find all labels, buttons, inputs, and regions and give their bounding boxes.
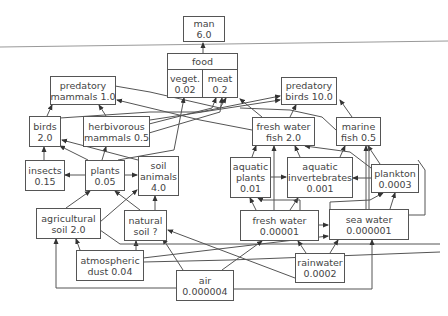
node-label: fresh water: [253, 215, 307, 226]
node-label: herbivorous: [88, 121, 144, 132]
node-label: soil: [150, 160, 166, 171]
node-label: plankton: [374, 168, 416, 179]
node-natural-soil: natural soil ?: [124, 210, 167, 241]
connector-lines: [0, 0, 448, 316]
node-air: air 0.000004: [176, 270, 234, 301]
node-label: rainwater: [297, 257, 342, 268]
node-label: mammals 0.5: [84, 132, 149, 143]
node-fresh-water: fresh water 0.00001: [240, 210, 319, 241]
node-value: 0.00001: [260, 226, 299, 237]
node-label: predatory: [60, 80, 107, 91]
food-chain-diagram: man 6.0 food veget. 0.02 meat 0.2 predat…: [0, 0, 448, 316]
node-agricultural-soil: agricultural soil 2.0: [36, 208, 101, 239]
node-soil-animals: soil animals 4.0: [138, 156, 179, 196]
node-value: 0.000001: [346, 225, 391, 236]
node-food-veget: veget. 0.02: [168, 70, 202, 98]
node-label: plants: [236, 172, 265, 183]
node-marine-fish: marine fish 0.5: [336, 117, 381, 146]
node-value: 0.01: [240, 183, 261, 194]
node-value: 6.0: [196, 29, 211, 40]
node-label: agricultural: [41, 213, 95, 224]
node-value: 0.15: [34, 176, 55, 187]
node-label: invertebrates: [288, 172, 352, 183]
node-value: 2.0: [37, 132, 52, 143]
node-value: 0.001: [306, 183, 333, 194]
node-label: atmospheric: [80, 255, 139, 266]
node-atmospheric-dust: atmospheric dust 0.04: [76, 250, 144, 281]
node-birds: birds 2.0: [29, 116, 61, 147]
node-label: plants: [90, 165, 119, 176]
node-food-meat: meat 0.2: [202, 70, 237, 98]
node-herbivorous-mammals: herbivorous mammals 0.5: [83, 116, 150, 147]
node-fresh-water-fish: fresh water fish 2.0: [252, 117, 315, 146]
node-value: 0.2: [203, 84, 237, 95]
node-label: aquatic: [233, 161, 268, 172]
node-value: 0.0003: [378, 179, 411, 190]
node-label: dust 0.04: [88, 266, 133, 277]
node-label: aquatic: [302, 161, 337, 172]
node-label: fresh water: [257, 121, 311, 132]
node-predatory-birds: predatory birds 10.0: [281, 77, 337, 105]
node-label: fish 0.5: [341, 132, 376, 143]
node-label: marine: [342, 121, 376, 132]
node-predatory-mammals: predatory mammals 1.0: [50, 76, 116, 105]
node-label: meat: [203, 73, 237, 84]
node-plants: plants 0.05: [85, 160, 125, 191]
node-value: 0.000004: [182, 286, 227, 297]
node-insects: insects 0.15: [25, 160, 65, 191]
food-header: food: [168, 54, 237, 70]
node-label: soil ?: [133, 226, 157, 237]
node-value: 4.0: [151, 182, 166, 193]
node-plankton: plankton 0.0003: [371, 164, 419, 193]
node-label: sea water: [346, 214, 393, 225]
node-label: insects: [28, 165, 61, 176]
node-label: man: [193, 18, 214, 29]
node-label: birds 10.0: [285, 91, 333, 102]
node-label: air: [199, 275, 211, 286]
node-aquatic-invertebrates: aquatic invertebrates 0.001: [287, 157, 353, 198]
node-value: 0.0002: [303, 268, 336, 279]
node-food: food veget. 0.02 meat 0.2: [167, 53, 238, 98]
node-label: fish 2.0: [266, 132, 301, 143]
node-label: mammals 1.0: [50, 91, 115, 102]
node-value: 0.02: [168, 84, 202, 95]
node-value: 0.05: [94, 176, 115, 187]
node-label: soil 2.0: [51, 224, 85, 235]
node-label: veget.: [168, 73, 202, 84]
node-rainwater: rainwater 0.0002: [295, 253, 345, 283]
node-label: predatory: [286, 80, 333, 91]
node-sea-water: sea water 0.000001: [329, 209, 409, 240]
node-label: birds: [33, 121, 56, 132]
node-label: natural: [129, 215, 163, 226]
node-aquatic-plants: aquatic plants 0.01: [230, 157, 271, 198]
node-man: man 6.0: [183, 16, 225, 42]
node-label: animals: [140, 171, 177, 182]
